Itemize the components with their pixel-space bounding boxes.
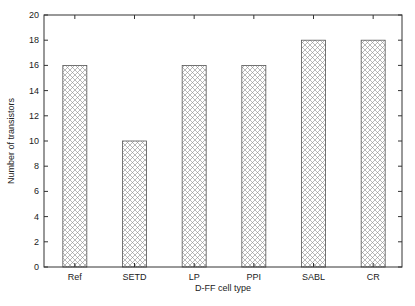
x-tick-label: CR [367, 272, 380, 282]
plot-frame [44, 15, 402, 267]
y-tick-label: 16 [29, 60, 39, 70]
y-tick-label: 4 [34, 212, 39, 222]
y-tick-label: 6 [34, 186, 39, 196]
y-tick-label: 14 [29, 86, 39, 96]
bars [63, 40, 385, 267]
y-tick-label: 12 [29, 111, 39, 121]
x-tick-label: SETD [122, 272, 147, 282]
bar-sabl [302, 40, 326, 267]
x-axis: RefSETDLPPPISABLCR [68, 15, 380, 282]
x-axis-label: D-FF cell type [195, 283, 251, 293]
bar-lp [182, 65, 206, 267]
y-tick-label: 18 [29, 35, 39, 45]
y-tick-label: 10 [29, 136, 39, 146]
y-tick-label: 8 [34, 161, 39, 171]
bar-cr [361, 40, 385, 267]
y-axis-label: Number of transistors [6, 97, 16, 184]
bar-setd [123, 141, 147, 267]
x-tick-label: LP [189, 272, 200, 282]
bar-chart: 02468101214161820 RefSETDLPPPISABLCR D-F… [0, 0, 415, 306]
x-tick-label: PPI [247, 272, 262, 282]
y-tick-label: 20 [29, 10, 39, 20]
y-tick-label: 2 [34, 237, 39, 247]
bar-ppi [242, 65, 266, 267]
x-tick-label: SABL [302, 272, 325, 282]
y-tick-label: 0 [34, 262, 39, 272]
bar-ref [63, 65, 87, 267]
x-tick-label: Ref [68, 272, 83, 282]
